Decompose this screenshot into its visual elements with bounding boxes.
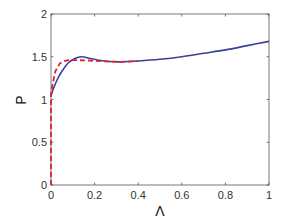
x-tick-label: 0.6 — [174, 189, 189, 201]
line-chart: 00.20.40.60.8100.511.52 Λ P — [0, 0, 285, 224]
tick-layer: 00.20.40.60.8100.511.52 — [32, 8, 272, 201]
y-tick-label: 1.5 — [32, 51, 47, 63]
plot-frame — [51, 14, 269, 185]
x-tick-label: 0 — [48, 189, 54, 201]
blue-solid-line — [51, 41, 269, 96]
x-tick-label: 0.8 — [218, 189, 233, 201]
y-tick-label: 2 — [41, 8, 47, 20]
y-tick-label: 0 — [41, 179, 47, 191]
axes-box — [51, 14, 269, 185]
y-axis-label: P — [13, 95, 29, 104]
series-layer — [51, 41, 269, 185]
red-dashed-line — [51, 60, 138, 185]
x-tick-label: 1 — [266, 189, 272, 201]
x-tick-label: 0.2 — [87, 189, 102, 201]
x-axis-label: Λ — [155, 203, 165, 219]
x-tick-label: 0.4 — [131, 189, 146, 201]
y-tick-label: 1 — [41, 94, 47, 106]
y-tick-label: 0.5 — [32, 136, 47, 148]
